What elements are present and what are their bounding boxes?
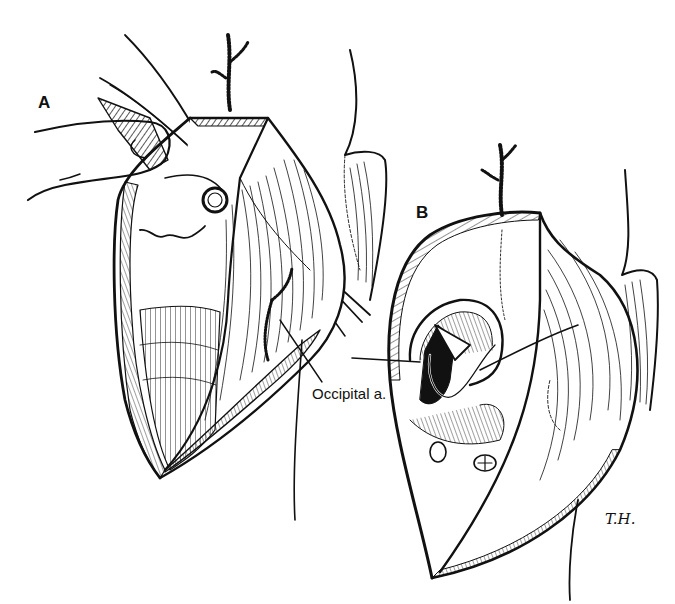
occipital-artery-callout: Occipital a. — [312, 385, 386, 402]
panel-b — [352, 145, 658, 600]
surgical-illustration — [0, 0, 675, 604]
panel-label-a: A — [38, 93, 50, 113]
artist-signature: T.H. — [605, 510, 635, 528]
panel-label-b: B — [416, 203, 428, 223]
panel-a — [28, 35, 386, 520]
